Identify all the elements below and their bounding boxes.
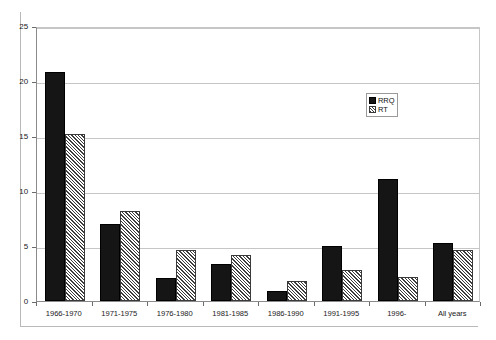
legend-item-rrq: RRQ xyxy=(369,96,394,105)
bar-chart: 0510152025 1966-19701971-19751976-198019… xyxy=(0,0,496,340)
bar-rrq xyxy=(322,246,342,301)
y-tick-label: 0 xyxy=(2,298,28,306)
legend-swatch-rrq xyxy=(369,97,376,104)
x-tick-mark xyxy=(36,302,37,306)
x-tick-mark xyxy=(425,302,426,306)
x-tick-label: All years xyxy=(425,309,481,318)
bar-group-bars xyxy=(370,28,426,301)
bar-rrq xyxy=(45,72,65,301)
bar-group xyxy=(370,28,426,301)
bar-rt xyxy=(287,281,307,301)
chart-legend: RRQ RT xyxy=(366,93,398,117)
bar-rt xyxy=(65,134,85,301)
bar-rt xyxy=(398,277,418,301)
bar-group xyxy=(93,28,149,301)
x-tick-mark xyxy=(92,302,93,306)
plot-area xyxy=(36,27,480,302)
x-tick-mark xyxy=(203,302,204,306)
x-tick-mark xyxy=(147,302,148,306)
y-tick-label: 5 xyxy=(2,243,28,251)
x-tick-label: 1986-1990 xyxy=(258,309,314,318)
bar-rt xyxy=(231,255,251,301)
legend-label-rrq: RRQ xyxy=(378,97,394,105)
x-tick-mark xyxy=(314,302,315,306)
legend-label-rt: RT xyxy=(378,106,388,114)
bar-rrq xyxy=(433,243,453,301)
x-tick-mark xyxy=(369,302,370,306)
bar-rrq xyxy=(211,264,231,301)
bar-group xyxy=(426,28,482,301)
x-tick-mark xyxy=(480,302,481,306)
y-tick-label: 15 xyxy=(2,133,28,141)
bar-group xyxy=(148,28,204,301)
bar-rrq xyxy=(378,179,398,301)
bar-group-bars xyxy=(259,28,315,301)
legend-swatch-rt xyxy=(369,106,376,113)
bar-group xyxy=(204,28,260,301)
bar-group-bars xyxy=(426,28,482,301)
bar-group-bars xyxy=(93,28,149,301)
bar-rrq xyxy=(267,291,287,301)
bar-rt xyxy=(342,270,362,301)
bar-rt xyxy=(176,250,196,301)
x-tick-label: 1991-1995 xyxy=(314,309,370,318)
x-tick-label: 1996- xyxy=(369,309,425,318)
bar-group-bars xyxy=(204,28,260,301)
bar-group xyxy=(315,28,371,301)
y-tick-label: 25 xyxy=(2,23,28,31)
bar-rrq xyxy=(156,278,176,301)
y-tick-label: 20 xyxy=(2,78,28,86)
bar-group-bars xyxy=(315,28,371,301)
bar-rrq xyxy=(100,224,120,301)
bar-group-bars xyxy=(148,28,204,301)
bar-group xyxy=(259,28,315,301)
bar-group xyxy=(37,28,93,301)
x-tick-label: 1966-1970 xyxy=(36,309,92,318)
bar-rt xyxy=(453,250,473,301)
x-tick-mark xyxy=(258,302,259,306)
y-tick-label: 10 xyxy=(2,188,28,196)
x-tick-label: 1976-1980 xyxy=(147,309,203,318)
bar-group-bars xyxy=(37,28,93,301)
bar-rt xyxy=(120,211,140,301)
x-tick-label: 1981-1985 xyxy=(203,309,259,318)
x-tick-label: 1971-1975 xyxy=(92,309,148,318)
legend-item-rt: RT xyxy=(369,105,394,114)
